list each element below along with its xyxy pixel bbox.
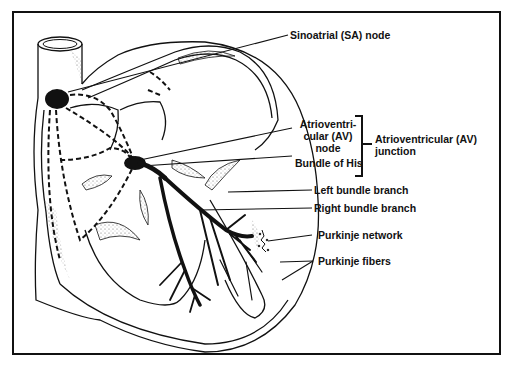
bundle-branches bbox=[140, 163, 262, 312]
label-av-junction-line1: Atrioventricular (AV) bbox=[375, 133, 477, 145]
label-sa-node: Sinoatrial (SA) node bbox=[290, 29, 390, 41]
label-av-node: Atrioventri- cular (AV) node bbox=[296, 118, 360, 154]
purkinje-network-shape bbox=[258, 230, 269, 252]
label-purkinje-fibers: Purkinje fibers bbox=[318, 255, 391, 267]
label-left-bundle-branch: Left bundle branch bbox=[314, 184, 409, 196]
label-right-bundle-branch: Right bundle branch bbox=[314, 202, 416, 214]
label-av-node-line3: node bbox=[296, 142, 360, 154]
heart-outline bbox=[34, 42, 319, 352]
label-purkinje-network: Purkinje network bbox=[318, 229, 403, 241]
heart-conduction-illustration bbox=[0, 0, 514, 367]
label-bundle-of-his: Bundle of His bbox=[295, 157, 363, 169]
label-av-node-line1: Atrioventri- bbox=[296, 118, 360, 130]
vena-cava bbox=[38, 37, 82, 98]
label-av-junction: Atrioventricular (AV) junction bbox=[375, 133, 477, 157]
sa-node-shape bbox=[45, 89, 69, 109]
label-av-junction-line2: junction bbox=[375, 145, 477, 157]
label-av-node-line2: cular (AV) bbox=[296, 130, 360, 142]
